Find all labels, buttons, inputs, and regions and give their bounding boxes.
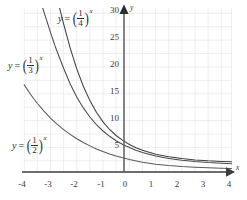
left-paren: ( <box>72 10 76 27</box>
fraction-denominator: 4 <box>77 19 84 28</box>
x-tick-label-0: 0 <box>117 180 133 189</box>
exponent-x: x <box>89 8 92 15</box>
fraction-one-third: 1 3 <box>27 56 34 75</box>
fraction-one-half: 1 2 <box>31 136 38 155</box>
right-paren: ) <box>35 57 39 74</box>
y-tick-label-10: 10 <box>103 114 119 123</box>
x-tick-label-4: 4 <box>221 180 237 189</box>
curve-label-one-quarter: y = ( 1 4 ) x <box>58 9 93 28</box>
x-tick-label--1: -1 <box>93 180 109 189</box>
curve-one-half <box>24 85 231 168</box>
x-tick-label-2: 2 <box>169 180 185 189</box>
x-tick-label--2: -2 <box>66 180 82 189</box>
fraction-numerator: 1 <box>27 56 34 65</box>
curve-label-lhs: y <box>12 141 16 151</box>
curve-label-one-half: y = ( 1 2 ) x <box>12 136 47 155</box>
exponent-x: x <box>39 55 42 62</box>
curve-label-equals: = <box>14 61 20 71</box>
curve-label-equals: = <box>18 141 24 151</box>
exponent-x: x <box>43 135 46 142</box>
y-axis-arrow <box>119 5 128 15</box>
curve-one-quarter <box>60 8 232 162</box>
fraction-denominator: 3 <box>27 66 34 75</box>
y-tick-label-20: 20 <box>103 60 119 69</box>
curve-label-equals: = <box>64 14 70 24</box>
x-tick-label--4: -4 <box>14 180 30 189</box>
y-tick-label-15: 15 <box>103 87 119 96</box>
fraction-numerator: 1 <box>77 9 84 18</box>
right-paren: ) <box>85 10 89 27</box>
exponential-decay-graph-figure: -4 -3 -2 -1 0 1 2 3 4 30 25 20 15 10 5 y… <box>0 0 247 200</box>
curve-group <box>24 8 231 168</box>
x-axis <box>22 167 235 176</box>
x-tick-label--3: -3 <box>40 180 56 189</box>
x-tick-label-1: 1 <box>143 180 159 189</box>
x-axis-name: x <box>236 164 239 172</box>
fraction-denominator: 2 <box>31 146 38 155</box>
y-tick-label-25: 25 <box>103 33 119 42</box>
fraction-numerator: 1 <box>31 136 38 145</box>
y-tick-label-30: 30 <box>103 6 119 15</box>
left-paren: ( <box>22 57 26 74</box>
right-paren: ) <box>39 137 43 154</box>
curve-label-lhs: y <box>58 14 62 24</box>
left-paren: ( <box>26 137 30 154</box>
y-tick-label-5: 5 <box>103 141 119 150</box>
fraction-one-quarter: 1 4 <box>77 9 84 28</box>
curve-one-third <box>43 8 232 164</box>
x-tick-label-3: 3 <box>195 180 211 189</box>
curve-label-one-third: y = ( 1 3 ) x <box>8 56 43 75</box>
plot-canvas <box>0 0 247 200</box>
curve-label-lhs: y <box>8 61 12 71</box>
y-axis-name: y <box>130 4 133 12</box>
